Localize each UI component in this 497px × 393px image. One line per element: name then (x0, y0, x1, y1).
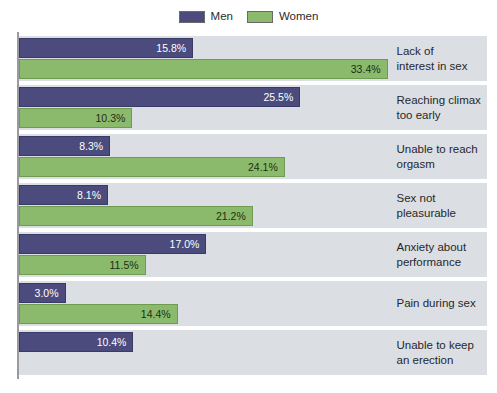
bar-value-women: 24.1% (248, 162, 284, 173)
bar-group-bars: 3.0%14.4% (19, 281, 397, 326)
bar-women[interactable]: 11.5% (19, 255, 146, 275)
bar-chart: 15.8%33.4%Lack ofinterest in sex25.5%10.… (17, 32, 487, 379)
square-swatch-icon (247, 11, 273, 23)
chart-legend: Men Women (0, 8, 497, 26)
legend-entry-women: Women (247, 11, 318, 23)
category-label: Anxiety aboutperformance (397, 232, 487, 277)
bar-value-women: 11.5% (110, 260, 145, 271)
bar-value-men: 8.3% (79, 141, 109, 152)
category-label-text: Sex notpleasurable (397, 191, 456, 219)
bar-men[interactable]: 17.0% (19, 234, 207, 254)
bar-group-bars: 10.4% (19, 330, 397, 375)
bar-value-women: 21.2% (216, 211, 252, 222)
bar-value-men: 25.5% (263, 92, 299, 103)
category-label-text: Anxiety aboutperformance (397, 240, 467, 268)
bar-value-men: 8.1% (77, 190, 107, 201)
bar-group-bars: 17.0%11.5% (19, 232, 397, 277)
bar-group: 10.4%Unable to keepan erection (19, 330, 488, 375)
category-label: Sex notpleasurable (397, 183, 487, 228)
category-label: Reaching climaxtoo early (397, 85, 487, 130)
bar-value-men: 10.4% (97, 337, 133, 348)
legend-entry-men: Men (179, 11, 233, 23)
category-label-text: Unable to reachorgasm (397, 142, 478, 170)
bar-women[interactable]: 21.2% (19, 206, 253, 226)
bar-group: 8.1%21.2%Sex notpleasurable (19, 183, 488, 228)
bar-group-bars: 8.3%24.1% (19, 134, 397, 179)
bar-group: 3.0%14.4%Pain during sex (19, 281, 488, 326)
category-label-text: Pain during sex (397, 296, 476, 310)
bar-value-men: 15.8% (156, 43, 192, 54)
category-label: Lack ofinterest in sex (397, 36, 487, 81)
legend-label-women: Women (279, 11, 318, 23)
bar-value-men: 3.0% (35, 288, 65, 299)
bar-group: 8.3%24.1%Unable to reachorgasm (19, 134, 488, 179)
bar-value-women: 14.4% (141, 309, 177, 320)
category-label-text: Reaching climaxtoo early (397, 93, 481, 121)
category-label: Pain during sex (397, 281, 487, 326)
category-label-text: Unable to keepan erection (397, 338, 474, 366)
bar-women[interactable]: 14.4% (19, 304, 178, 324)
bar-men[interactable]: 25.5% (19, 87, 301, 107)
category-label: Unable to keepan erection (397, 330, 487, 375)
legend-label-men: Men (211, 11, 233, 23)
category-label-text: Lack ofinterest in sex (397, 44, 468, 72)
bar-group-bars: 25.5%10.3% (19, 85, 397, 130)
bar-men[interactable]: 3.0% (19, 283, 66, 303)
bar-group-bars: 15.8%33.4% (19, 36, 397, 81)
bar-men[interactable]: 15.8% (19, 38, 194, 58)
bar-group: 17.0%11.5%Anxiety aboutperformance (19, 232, 488, 277)
bar-value-women: 10.3% (96, 113, 132, 124)
bar-group-bars: 8.1%21.2% (19, 183, 397, 228)
bar-men[interactable]: 10.4% (19, 332, 134, 352)
bar-value-men: 17.0% (170, 239, 206, 250)
bar-women[interactable]: 10.3% (19, 108, 133, 128)
bar-group: 25.5%10.3%Reaching climaxtoo early (19, 85, 488, 130)
bar-women[interactable]: 24.1% (19, 157, 285, 177)
category-label: Unable to reachorgasm (397, 134, 487, 179)
bar-group: 15.8%33.4%Lack ofinterest in sex (19, 36, 488, 81)
bar-men[interactable]: 8.3% (19, 136, 111, 156)
bar-women[interactable]: 33.4% (19, 59, 388, 79)
bar-value-women: 33.4% (351, 64, 387, 75)
square-swatch-icon (179, 11, 205, 23)
bar-men[interactable]: 8.1% (19, 185, 109, 205)
